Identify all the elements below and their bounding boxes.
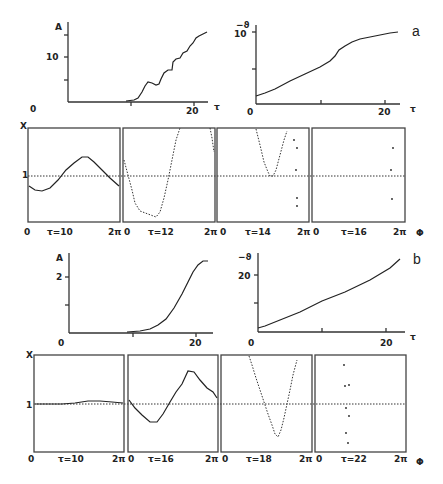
y-label-X: X <box>26 350 33 360</box>
panel-label-a: a <box>412 23 420 39</box>
panel-label-b: b <box>413 251 421 267</box>
x-tick-2pi: 2π <box>393 227 406 237</box>
x-tick-20: 20 <box>380 338 393 348</box>
plot-a-phase: −ϑ 10 0 20 τ a <box>234 20 420 117</box>
x-label-tau: τ <box>214 102 220 112</box>
y-label-A: A <box>55 22 62 32</box>
origin-label: 0 <box>247 107 253 117</box>
subplot-label-tau16: τ=16 <box>341 227 367 237</box>
plot-a-x-phi: X 1 0 τ=10 2π 0 τ=12 2π 0 τ=14 2π 0 τ=16… <box>20 121 424 238</box>
y-tick-1: 1 <box>26 400 32 410</box>
y-label-theta: −ϑ <box>238 252 252 262</box>
plot-b-amplitude: A 2 0 20 <box>56 253 213 348</box>
figure: A 10 0 20 τ −ϑ 10 0 20 τ a X 1 <box>0 0 443 484</box>
x-tick-2pi: 2π <box>204 227 217 237</box>
curve-A-b <box>127 261 208 332</box>
x-tick-0: 0 <box>313 227 319 237</box>
x-label-phi: Φ <box>416 457 424 467</box>
y-tick-10: 10 <box>234 29 247 39</box>
x-label-tau: τ <box>410 104 416 114</box>
x-label-phi: Φ <box>416 228 424 238</box>
subplot-a-tau14 <box>217 128 309 222</box>
subplot-label-tau12: τ=12 <box>148 227 174 237</box>
y-tick-20: 20 <box>238 271 251 281</box>
x-tick-20: 20 <box>378 107 391 117</box>
x-tick-2pi: 2π <box>108 227 121 237</box>
x-tick-0: 0 <box>220 227 226 237</box>
x-tick-2pi: 2π <box>299 454 312 464</box>
y-label-X: X <box>20 121 27 131</box>
x-tick-20: 20 <box>189 338 202 348</box>
x-tick-0: 0 <box>28 454 34 464</box>
x-tick-2pi: 2π <box>205 454 218 464</box>
x-tick-2pi: 2π <box>112 454 125 464</box>
subplot-a-tau16 <box>312 128 405 222</box>
x-tick-2pi: 2π <box>297 227 310 237</box>
x-tick-0: 0 <box>128 454 134 464</box>
x-tick-0: 0 <box>316 454 322 464</box>
subplot-label-tau14: τ=14 <box>245 227 271 237</box>
plot-b-phase: −ϑ 20 0 20 τ b <box>238 251 421 348</box>
y-label-A: A <box>56 253 63 263</box>
origin-label: 0 <box>30 104 36 114</box>
curve-A <box>126 32 207 101</box>
subplot-label-tau16: τ=16 <box>148 454 174 464</box>
x-tick-20: 20 <box>186 106 199 116</box>
x-tick-0: 0 <box>222 454 228 464</box>
x-label-tau: τ <box>410 332 416 342</box>
y-tick-10: 10 <box>46 52 59 62</box>
x-tick-2pi: 2π <box>394 454 407 464</box>
subplot-label-tau22: τ=22 <box>341 454 367 464</box>
subplot-label-tau18: τ=18 <box>246 454 272 464</box>
curve-theta <box>256 32 398 96</box>
x-tick-0: 0 <box>24 227 30 237</box>
origin-label: 0 <box>58 338 64 348</box>
curve-theta-b <box>258 259 400 328</box>
plot-b-x-phi: X 1 0 τ=10 2π 0 τ=16 2π 0 τ=18 2π 0 τ=22… <box>26 350 424 467</box>
subplot-label-tau10: τ=10 <box>58 454 84 464</box>
subplot-label-tau10: τ=10 <box>47 227 73 237</box>
y-tick-2: 2 <box>56 272 62 282</box>
origin-label: 0 <box>248 338 254 348</box>
plot-a-amplitude: A 10 0 20 τ <box>30 22 220 116</box>
y-tick-1: 1 <box>22 170 28 180</box>
x-tick-0: 0 <box>124 227 130 237</box>
